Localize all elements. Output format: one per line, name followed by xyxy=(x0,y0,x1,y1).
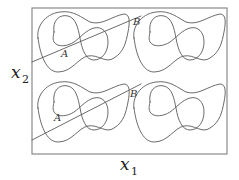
x-axis-label: x 1 xyxy=(120,154,138,178)
x-axis-symbol: x xyxy=(120,154,130,174)
contour-tile-top-left xyxy=(38,12,129,72)
separatrix-top xyxy=(32,16,141,62)
outer-contour xyxy=(134,82,225,142)
y-axis-subscript: 2 xyxy=(22,73,29,86)
y-axis-label: x 2 xyxy=(11,62,29,86)
contour-figure: A A B B x 2 x 1 xyxy=(0,0,239,180)
separatrix-bottom xyxy=(32,84,141,140)
outer-contour xyxy=(38,12,129,72)
outer-contour xyxy=(38,82,129,142)
point-label-b-bottom: B xyxy=(129,88,137,99)
contour-tile-bottom-left xyxy=(38,82,129,142)
y-axis-symbol: x xyxy=(11,62,21,82)
contour-tile-top-right xyxy=(134,12,225,72)
plot-frame xyxy=(32,8,227,154)
outer-contour xyxy=(134,12,225,72)
x-axis-subscript: 1 xyxy=(131,165,138,178)
point-label-b-top: B xyxy=(132,16,140,27)
point-label-a-bottom: A xyxy=(53,112,61,123)
point-label-a-top: A xyxy=(60,48,68,59)
contour-tile-bottom-right xyxy=(134,82,225,142)
